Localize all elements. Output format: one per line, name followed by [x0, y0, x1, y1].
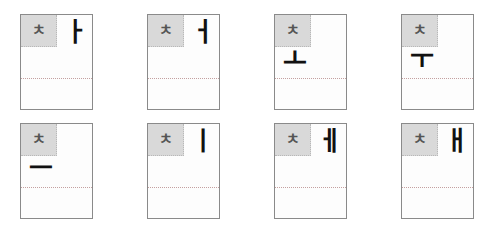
syllable-card-che: ㅊ ㅔ — [274, 123, 347, 219]
vowel-label: ㅐ — [442, 127, 472, 155]
guide-line — [148, 187, 219, 188]
consonant-box: ㅊ — [275, 124, 311, 156]
consonant-box: ㅊ — [21, 124, 57, 156]
consonant-box: ㅊ — [402, 124, 438, 156]
consonant-label: ㅊ — [21, 20, 56, 40]
consonant-label: ㅊ — [148, 129, 183, 149]
consonant-label: ㅊ — [275, 129, 310, 149]
consonant-box: ㅊ — [148, 15, 184, 47]
guide-line — [402, 78, 473, 79]
syllable-card-cheo: ㅊ ㅓ — [147, 14, 220, 110]
syllable-card-chae: ㅊ ㅐ — [401, 123, 474, 219]
consonant-box: ㅊ — [402, 15, 438, 47]
guide-line — [21, 187, 92, 188]
vowel-label: ㅣ — [188, 127, 218, 155]
vowel-label: ㅡ — [25, 154, 57, 182]
consonant-label: ㅊ — [148, 20, 183, 40]
consonant-box: ㅊ — [21, 15, 57, 47]
consonant-label: ㅊ — [402, 20, 437, 40]
vowel-label: ㅔ — [315, 127, 345, 155]
syllable-card-cho: ㅊ ㅗ — [274, 14, 347, 110]
vowel-label: ㅓ — [188, 18, 218, 46]
syllable-card-chi: ㅊ ㅣ — [147, 123, 220, 219]
vowel-label: ㅜ — [406, 45, 438, 73]
guide-line — [21, 78, 92, 79]
guide-line — [148, 78, 219, 79]
vowel-label: ㅗ — [279, 45, 311, 73]
consonant-box: ㅊ — [148, 124, 184, 156]
guide-line — [275, 78, 346, 79]
syllable-card-cha: ㅊ ㅏ — [20, 14, 93, 110]
vowel-label: ㅏ — [61, 18, 91, 46]
consonant-box: ㅊ — [275, 15, 311, 47]
consonant-label: ㅊ — [275, 20, 310, 40]
guide-line — [402, 187, 473, 188]
guide-line — [275, 187, 346, 188]
syllable-card-chu: ㅊ ㅜ — [401, 14, 474, 110]
syllable-card-cheu: ㅊ ㅡ — [20, 123, 93, 219]
consonant-label: ㅊ — [402, 129, 437, 149]
consonant-label: ㅊ — [21, 129, 56, 149]
